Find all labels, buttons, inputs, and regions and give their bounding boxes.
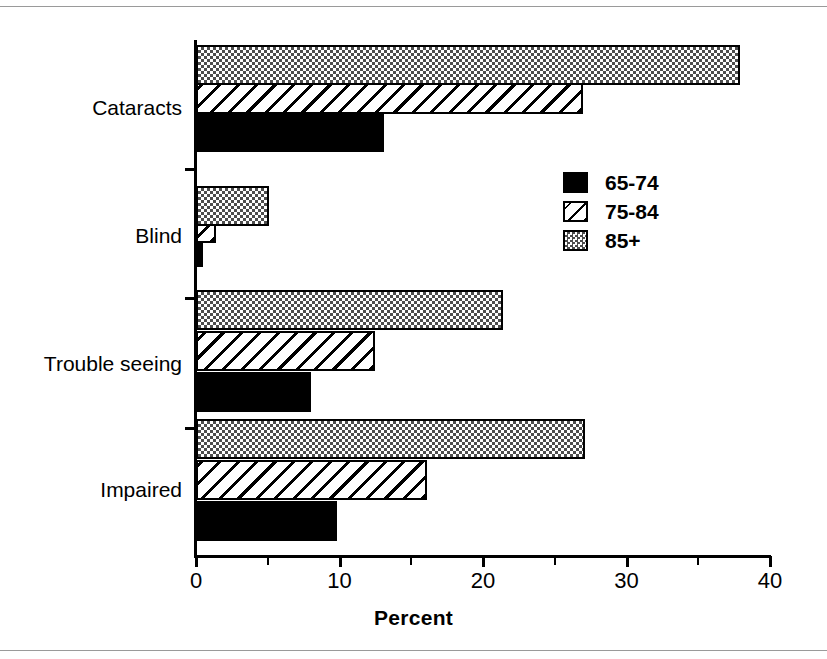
x-axis-tick-label: 40	[758, 568, 782, 594]
x-axis-tick-label: 0	[190, 568, 202, 594]
category-label-blind: Blind	[135, 224, 182, 248]
chart-legend: 65-74 75-84 85+	[563, 168, 659, 255]
x-axis-tick-label: 10	[327, 568, 351, 594]
y-axis-tick	[185, 168, 195, 171]
x-axis-minor-tick	[697, 556, 699, 565]
x-axis-title: Percent	[0, 606, 827, 630]
x-axis-tick-label: 30	[614, 568, 638, 594]
bar	[196, 186, 269, 226]
bar-chart: Cataracts Blind Trouble seeing Impaired …	[0, 0, 827, 659]
y-axis-tick	[185, 297, 195, 300]
legend-swatch-icon	[563, 230, 588, 251]
bar	[196, 243, 203, 267]
x-axis-tick-label: 20	[471, 568, 495, 594]
bar	[196, 290, 503, 330]
x-axis-tick	[769, 556, 772, 567]
x-axis-tick	[482, 556, 485, 567]
x-axis-minor-tick	[267, 556, 269, 565]
legend-label: 75-84	[605, 200, 659, 224]
bar	[196, 460, 427, 500]
legend-label: 85+	[605, 229, 641, 253]
x-axis-tick	[626, 556, 629, 567]
bar	[196, 331, 375, 371]
category-label-trouble-seeing: Trouble seeing	[44, 352, 182, 376]
category-label-impaired: Impaired	[100, 478, 182, 502]
legend-item-85-plus: 85+	[563, 226, 659, 255]
x-axis-minor-tick	[410, 556, 412, 565]
bar	[196, 45, 740, 85]
bar	[196, 419, 585, 459]
bar	[196, 501, 337, 541]
x-axis-tick	[339, 556, 342, 567]
legend-item-65-74: 65-74	[563, 168, 659, 197]
x-axis-minor-tick	[554, 556, 556, 565]
category-label-cataracts: Cataracts	[92, 96, 182, 120]
legend-swatch-icon	[563, 201, 588, 222]
y-axis-tick	[185, 427, 195, 430]
legend-swatch-icon	[563, 172, 588, 193]
legend-item-75-84: 75-84	[563, 197, 659, 226]
bar	[196, 114, 384, 152]
bar	[196, 372, 311, 412]
x-axis-tick	[195, 556, 198, 567]
legend-label: 65-74	[605, 171, 659, 195]
